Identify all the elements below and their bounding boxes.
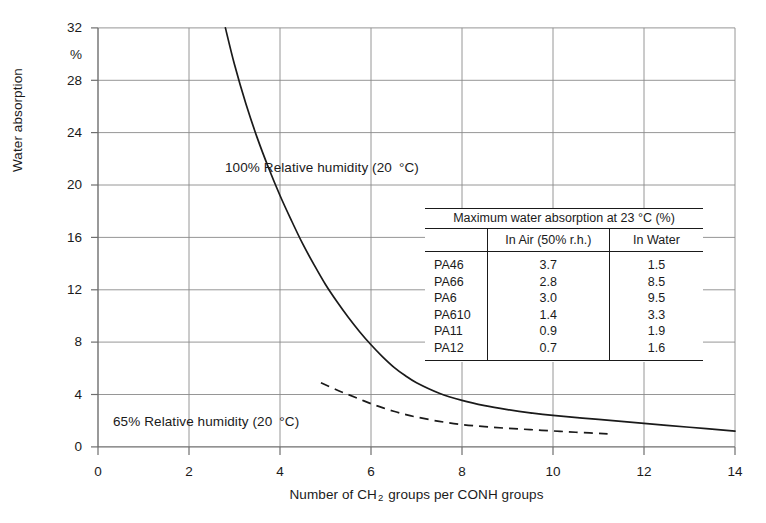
row-material-name: PA12 <box>425 340 487 361</box>
y-tick-label-0: 0 <box>42 440 82 454</box>
x-tick-label-2: 2 <box>169 465 209 479</box>
row-in-air-value: 1.4 <box>487 307 609 324</box>
x-tick-label-4: 4 <box>260 465 300 479</box>
table-row: PA12 0.7 1.6 <box>425 340 703 361</box>
table-header-row: In Air (50% r.h.) In Water <box>425 229 703 252</box>
row-in-water-value: 1.9 <box>609 323 703 340</box>
bottom-rule-cell <box>425 361 487 362</box>
row-in-air-value: 3.7 <box>487 257 609 274</box>
y-tick-label-16: 16 <box>42 231 82 245</box>
row-material-name: PA66 <box>425 274 487 291</box>
curve-65-percent-humidity <box>321 383 608 434</box>
annotation-100-percent-humidity: 100% Relative humidity (20°C) <box>225 160 419 175</box>
table-bottom-rule <box>425 361 703 362</box>
annotation-65-text: 65% Relative humidity (20 <box>113 414 272 429</box>
y-axis-ticks <box>91 28 98 447</box>
x-tick-label-14: 14 <box>715 465 755 479</box>
annotation-65-percent-humidity: 65% Relative humidity (20°C) <box>113 414 299 429</box>
inset-data-table: Maximum water absorption at 23 °C (%) In… <box>425 208 703 361</box>
x-tick-label-12: 12 <box>624 465 664 479</box>
annotation-100-text: 100% Relative humidity (20 <box>225 160 392 175</box>
y-tick-label-32: 32 <box>42 21 82 35</box>
x-axis-title: Number of CH2 groups per CONH groups <box>98 487 735 503</box>
row-in-water-value: 8.5 <box>609 274 703 291</box>
table-row: PA6 3.0 9.5 <box>425 290 703 307</box>
x-axis-title-prefix: Number of CH <box>290 487 377 502</box>
x-tick-label-0: 0 <box>78 465 118 479</box>
y-tick-label-12: 12 <box>42 283 82 297</box>
annotation-100-degrees: °C) <box>392 160 419 175</box>
y-tick-label-20: 20 <box>42 178 82 192</box>
row-in-air-value: 3.0 <box>487 290 609 307</box>
row-material-name: PA6 <box>425 290 487 307</box>
y-tick-label-24: 24 <box>42 126 82 140</box>
table-row: PA11 0.9 1.9 <box>425 323 703 340</box>
bottom-rule-cell <box>487 361 609 362</box>
bottom-rule-cell <box>609 361 703 362</box>
row-in-air-value: 2.8 <box>487 274 609 291</box>
row-in-water-value: 1.6 <box>609 340 703 361</box>
table-row: PA66 2.8 8.5 <box>425 274 703 291</box>
x-tick-label-8: 8 <box>442 465 482 479</box>
row-in-water-value: 1.5 <box>609 257 703 274</box>
max-water-absorption-table: Maximum water absorption at 23 °C (%) In… <box>425 208 703 361</box>
row-in-air-value: 0.7 <box>487 340 609 361</box>
table-header-blank <box>425 229 487 252</box>
y-axis-unit-label: % <box>42 48 82 62</box>
row-material-name: PA11 <box>425 323 487 340</box>
y-tick-label-28: 28 <box>42 74 82 88</box>
row-in-water-value: 9.5 <box>609 290 703 307</box>
row-in-water-value: 3.3 <box>609 307 703 324</box>
x-axis-title-suffix: groups per CONH groups <box>384 487 543 502</box>
row-in-air-value: 0.9 <box>487 323 609 340</box>
y-tick-label-8: 8 <box>42 335 82 349</box>
annotation-65-degrees: °C) <box>272 414 299 429</box>
table-row: PA46 3.7 1.5 <box>425 257 703 274</box>
x-axis-ticks <box>98 447 735 455</box>
y-axis-title: Water absorption <box>10 0 32 172</box>
table-title-row: Maximum water absorption at 23 °C (%) <box>425 209 703 229</box>
x-tick-label-10: 10 <box>533 465 573 479</box>
row-material-name: PA46 <box>425 257 487 274</box>
water-absorption-chart-figure: Water absorption Number of CH2 groups pe… <box>0 0 766 523</box>
row-material-name: PA610 <box>425 307 487 324</box>
table-title: Maximum water absorption at 23 °C (%) <box>425 209 703 229</box>
table-header-in-water: In Water <box>609 229 703 252</box>
table-row: PA610 1.4 3.3 <box>425 307 703 324</box>
table-header-in-air: In Air (50% r.h.) <box>487 229 609 252</box>
x-tick-label-6: 6 <box>351 465 391 479</box>
y-tick-label-4: 4 <box>42 388 82 402</box>
